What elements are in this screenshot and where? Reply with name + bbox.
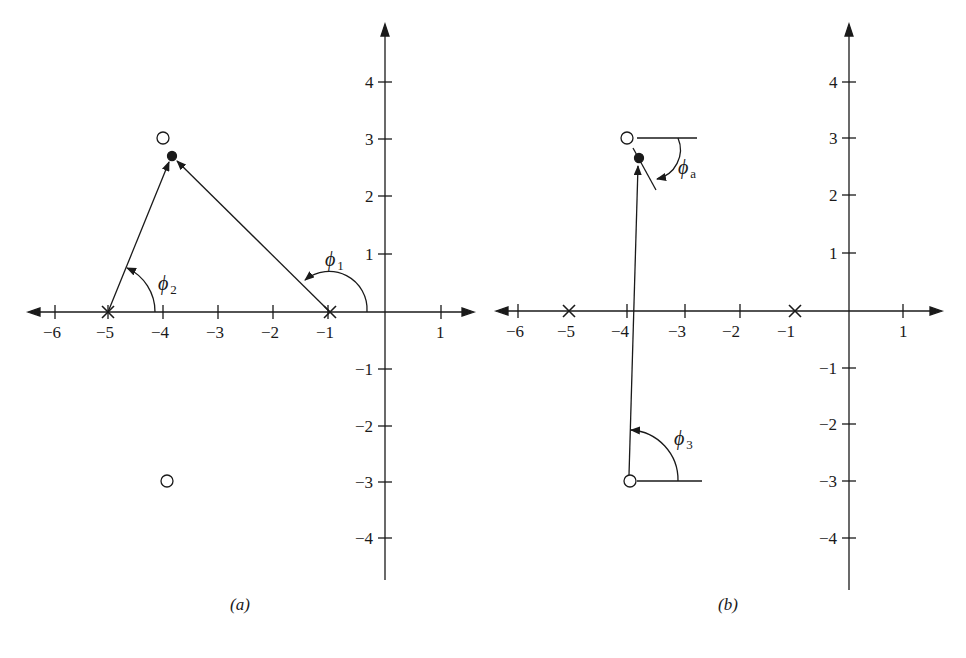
y-tick-label: −2 xyxy=(355,417,373,436)
panel-b xyxy=(496,24,942,590)
y-tick-label: −1 xyxy=(355,360,373,379)
angle-arc-phi2 xyxy=(127,268,155,312)
imag-axis xyxy=(378,24,392,580)
y-tick-label: −4 xyxy=(355,529,374,548)
angle-label-phi3: ϕ3 xyxy=(674,427,693,452)
x-tick-label: −6 xyxy=(43,323,61,342)
axis-arrow-left-icon xyxy=(496,307,508,315)
axis-arrow-up-icon xyxy=(845,24,853,36)
x-tick-label: −3 xyxy=(206,323,224,342)
x-tick-label: −2 xyxy=(261,323,279,342)
x-tick-label: −6 xyxy=(506,322,524,341)
x-tick-label: −4 xyxy=(151,323,170,342)
root-locus-figure: −6 −5 −4 −3 −2 −1 1 4 3 2 1 −1 −2 −3 −4 … xyxy=(0,0,966,658)
y-tick-label: 4 xyxy=(829,73,838,92)
angle-label-phi2: ϕ2 xyxy=(158,272,177,297)
axis-arrow-up-icon xyxy=(381,24,389,36)
y-tick-label: −2 xyxy=(819,415,837,434)
test-point-icon xyxy=(635,154,644,163)
panel-a-labels: −6 −5 −4 −3 −2 −1 1 4 3 2 1 −1 −2 −3 −4 … xyxy=(43,73,445,614)
y-tick-label: 4 xyxy=(365,73,374,92)
panel-b-labels: −6 −5 −4 −3 −2 −1 1 4 3 2 1 −1 −2 −3 −4 … xyxy=(506,73,908,614)
x-tick-label: 1 xyxy=(436,323,445,342)
axis-arrow-right-icon xyxy=(930,307,942,315)
zero-marker-icon xyxy=(621,132,633,144)
x-tick-label: −1 xyxy=(316,323,334,342)
y-tick-label: 2 xyxy=(365,187,374,206)
angle-arc-phi3 xyxy=(631,430,678,481)
test-point-icon xyxy=(168,152,177,161)
panel-a xyxy=(28,24,474,580)
x-tick-label: −2 xyxy=(722,322,740,341)
x-tick-label: −1 xyxy=(777,322,795,341)
zero-marker-icon xyxy=(157,132,169,144)
imag-axis xyxy=(842,24,856,590)
angle-label-phia: ϕa xyxy=(678,156,696,181)
y-tick-label: 1 xyxy=(829,244,838,263)
x-tick-label: −5 xyxy=(96,323,114,342)
real-axis xyxy=(28,305,474,319)
angle-arc-phia xyxy=(657,138,680,179)
y-tick-label: −3 xyxy=(819,472,837,491)
x-tick-label: 1 xyxy=(899,322,908,341)
angle-label-phi1: ϕ1 xyxy=(325,248,344,273)
caption-a: (a) xyxy=(230,595,250,614)
zero-marker-icon xyxy=(161,475,173,487)
zero-marker-icon xyxy=(624,475,636,487)
x-tick-label: −5 xyxy=(557,322,575,341)
y-tick-label: −1 xyxy=(819,359,837,378)
caption-b: (b) xyxy=(718,595,738,614)
y-tick-label: 3 xyxy=(365,130,374,149)
y-tick-label: 2 xyxy=(829,186,838,205)
y-tick-label: 1 xyxy=(365,245,374,264)
x-tick-label: −3 xyxy=(668,322,686,341)
vector-from-zero-lower xyxy=(629,166,638,475)
axis-arrow-left-icon xyxy=(28,308,40,316)
y-tick-label: −4 xyxy=(819,529,838,548)
axis-arrow-right-icon xyxy=(462,308,474,316)
x-tick-label: −4 xyxy=(611,322,630,341)
y-tick-label: −3 xyxy=(355,473,373,492)
angle-arc-phi1 xyxy=(305,271,367,312)
y-tick-label: 3 xyxy=(829,129,838,148)
real-axis xyxy=(496,304,942,318)
vector-from-pole-minus1 xyxy=(177,161,330,312)
